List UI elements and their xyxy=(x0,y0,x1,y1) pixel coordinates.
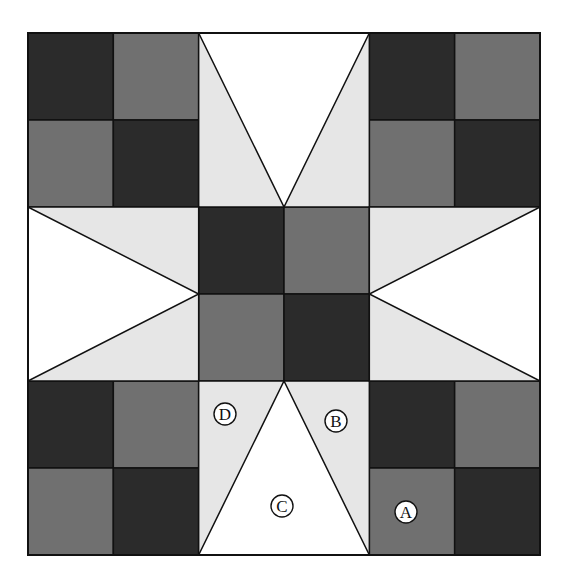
square-dark xyxy=(455,120,540,207)
square-medium xyxy=(455,33,540,120)
square-medium xyxy=(199,294,284,381)
square-medium xyxy=(369,120,454,207)
square-dark xyxy=(369,33,454,120)
svg-text:C: C xyxy=(276,497,287,516)
quilt-block-diagram: ABCD xyxy=(0,0,571,588)
svg-text:D: D xyxy=(219,405,231,424)
star-point-top xyxy=(199,33,370,207)
square-dark xyxy=(369,381,454,468)
square-dark xyxy=(113,120,198,207)
square-medium xyxy=(113,381,198,468)
square-medium xyxy=(28,120,113,207)
square-dark xyxy=(28,381,113,468)
square-dark xyxy=(28,33,113,120)
square-dark xyxy=(199,207,284,294)
star-point-left xyxy=(28,207,199,381)
label-a: A xyxy=(395,501,417,523)
svg-text:A: A xyxy=(400,503,413,522)
svg-text:B: B xyxy=(330,412,341,431)
square-medium xyxy=(28,468,113,555)
label-b: B xyxy=(325,410,347,432)
square-dark xyxy=(284,294,369,381)
square-dark xyxy=(455,468,540,555)
square-dark xyxy=(113,468,198,555)
square-medium xyxy=(455,381,540,468)
square-medium xyxy=(113,33,198,120)
label-c: C xyxy=(271,495,293,517)
star-point-right xyxy=(369,207,540,381)
square-medium xyxy=(284,207,369,294)
label-d: D xyxy=(214,403,236,425)
